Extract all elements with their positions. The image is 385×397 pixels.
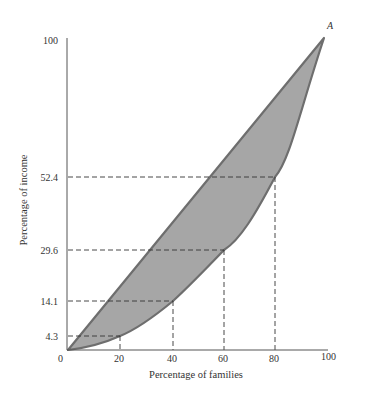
y-tick-14: 14.1 — [41, 296, 59, 307]
x-tick-60: 60 — [218, 353, 228, 364]
lorenz-chart: 0 20 40 60 80 100 4.3 14.1 29.6 52.4 100… — [0, 0, 385, 397]
y-tick-100: 100 — [43, 35, 58, 46]
x-tick-40: 40 — [167, 353, 177, 364]
x-tick-20: 20 — [114, 353, 124, 364]
point-a-label: A — [326, 20, 334, 31]
origin-label: 0 — [58, 353, 63, 364]
y-tick-4: 4.3 — [46, 331, 59, 342]
x-tick-100: 100 — [321, 351, 336, 362]
x-tick-80: 80 — [269, 353, 279, 364]
y-tick-52: 52.4 — [41, 172, 59, 183]
x-axis-title: Percentage of families — [149, 369, 243, 380]
inequality-area — [68, 38, 324, 350]
y-tick-29: 29.6 — [41, 245, 59, 256]
y-axis-title: Percentage of income — [18, 154, 29, 245]
